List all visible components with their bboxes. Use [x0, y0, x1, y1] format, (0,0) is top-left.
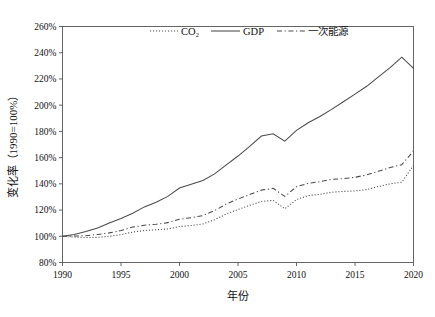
y-tick-label: 80%	[39, 258, 57, 268]
legend-label-energy: 一次能源	[308, 25, 349, 37]
y-tick-label: 120%	[34, 205, 56, 215]
y-tick-label: 240%	[34, 48, 56, 58]
y-tick-label: 100%	[34, 232, 56, 242]
legend-label-co2: CO₂	[181, 26, 200, 37]
y-axis-title: 变化率（1990=100%）	[6, 90, 19, 199]
y-tick-label: 260%	[34, 22, 56, 32]
y-tick-label: 140%	[34, 179, 56, 189]
y-tick-label: 160%	[34, 153, 56, 163]
y-tick-label: 220%	[34, 74, 56, 84]
y-tick-label: 180%	[34, 127, 56, 137]
x-tick-label: 2010	[287, 270, 306, 280]
x-tick-label: 2015	[346, 270, 365, 280]
chart-figure: 80%100%120%140%160%180%200%220%240%260% …	[0, 0, 435, 317]
x-tick-label: 2000	[170, 270, 189, 280]
x-axis-title: 年份	[227, 289, 249, 302]
legend-label-gdp: GDP	[243, 26, 264, 37]
x-tick-label: 2005	[229, 270, 248, 280]
x-tick-label: 1995	[112, 270, 131, 280]
x-tick-label: 1990	[53, 270, 72, 280]
x-tick-label: 2020	[404, 270, 423, 280]
y-tick-label: 200%	[34, 101, 56, 111]
